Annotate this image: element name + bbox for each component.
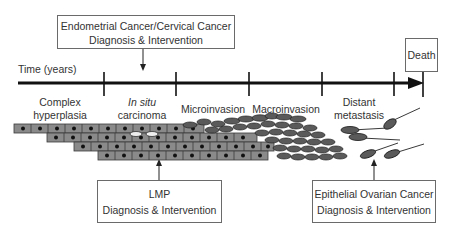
timeline-arrowhead-icon [408,77,424,89]
callout-title: LMP [98,186,221,202]
stage-label-line2: hyperplasia [30,109,90,122]
lmp-callout: LMP Diagnosis & Intervention [97,180,222,223]
stage-label-complex-hyperplasia: Complex hyperplasia [30,96,90,122]
stage-label-line1: Distant [328,96,390,109]
ovarian-callout-arrow [371,159,377,180]
callout-title: Endometrial Cancer/Cervical Cancer [58,19,234,33]
stage-label-line2: metastasis [328,109,390,122]
stage-label-macroinvasion: Macroinvasion [250,103,322,116]
cell-row-1 [14,124,204,133]
endometrial-callout-arrow [140,48,146,71]
stage-label-microinvasion: Microinvasion [178,103,248,116]
timeline-label: Time (years) [18,63,77,76]
cell-row-4 [98,151,268,160]
death-label: Death [407,49,435,61]
stage-label-line1: Complex [30,96,90,109]
timeline-axis [18,72,424,97]
endometrial-cervical-callout: Endometrial Cancer/Cervical Cancer Diagn… [57,15,235,49]
stage-label-distant-metastasis: Distant metastasis [328,96,390,122]
stage-label-line1: Macroinvasion [250,103,322,116]
callout-subtitle: Diagnosis & Intervention [58,33,234,47]
epithelial-ovarian-callout: Epithelial Ovarian Cancer Diagnosis & In… [312,180,436,223]
stage-label-in-situ-carcinoma: In situ carcinoma [112,96,172,122]
lmp-callout-arrow [156,159,162,180]
callout-subtitle: Diagnosis & Intervention [313,202,435,218]
stage-label-line1: Microinvasion [178,103,248,116]
death-box: Death [405,38,438,72]
callout-subtitle: Diagnosis & Intervention [98,202,221,218]
stage-label-line1: In situ [112,96,172,109]
stage-label-line2: carcinoma [112,109,172,122]
callout-title: Epithelial Ovarian Cancer [313,186,435,202]
cell-row-3 [74,142,274,151]
